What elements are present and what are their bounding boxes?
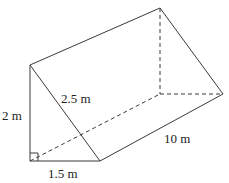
base-label: 1.5 m [48,166,78,181]
bottom-right-length-edge [100,94,223,161]
height-label: 2 m [2,108,22,123]
hidden-bottom-left-edge [30,94,160,161]
hypotenuse-label: 2.5 m [61,91,91,106]
front-hypotenuse-edge [30,65,100,161]
length-label: 10 m [164,131,190,146]
triangular-prism-diagram: 2 m 2.5 m 1.5 m 10 m [0,0,229,183]
top-ridge-edge [30,8,160,65]
back-hypotenuse-edge [160,8,223,94]
